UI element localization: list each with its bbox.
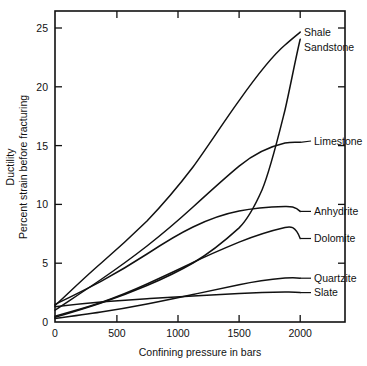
curve-sandstone	[55, 39, 300, 317]
x-axis-ticks-top	[117, 11, 300, 18]
series-labels: Shale Sandstone Limestone Anhydrite Dolo…	[304, 26, 363, 298]
series-label-shale: Shale	[304, 26, 331, 38]
y-tick-label-25: 25	[36, 22, 48, 34]
series-label-limestone: Limestone	[314, 135, 363, 147]
y-tick-label-20: 20	[36, 81, 48, 93]
x-tick-labels: 0 500 1000 1500 2000	[52, 327, 312, 339]
curve-limestone	[55, 142, 300, 310]
series-label-dolomite: Dolomite	[314, 232, 356, 244]
y-axis-ticks	[55, 28, 62, 263]
ductility-chart: 25 20 15 10 5 0 0 500 1000 1500 2000 Con…	[0, 0, 367, 366]
y-axis-title-ductility: Ductility	[4, 148, 16, 186]
x-tick-label-500: 500	[108, 327, 126, 339]
y-tick-label-10: 10	[36, 198, 48, 210]
curve-quartzite	[55, 278, 300, 319]
series-curves	[55, 32, 300, 318]
x-tick-label-1000: 1000	[166, 327, 190, 339]
y-tick-labels: 25 20 15 10 5 0	[36, 22, 48, 328]
curve-slate	[55, 292, 300, 307]
series-label-sandstone: Sandstone	[304, 41, 354, 53]
series-label-slate: Slate	[314, 286, 338, 298]
x-axis-title: Confining pressure in bars	[139, 346, 262, 358]
plot-frame	[55, 11, 345, 322]
curve-shale	[55, 32, 300, 305]
y-axis-title-strain: Percent strain before fracturing	[17, 95, 29, 239]
leader-limestone	[300, 141, 311, 142]
y-tick-label-5: 5	[42, 257, 48, 269]
x-axis-ticks	[117, 315, 300, 322]
x-tick-label-1500: 1500	[227, 327, 251, 339]
series-label-quartzite: Quartzite	[314, 272, 357, 284]
label-leaders	[300, 141, 311, 293]
y-tick-label-15: 15	[36, 140, 48, 152]
series-label-anhydrite: Anhydrite	[314, 205, 359, 217]
y-tick-label-0: 0	[42, 316, 48, 328]
x-tick-label-2000: 2000	[289, 327, 313, 339]
x-tick-label-0: 0	[52, 327, 58, 339]
chart-svg: 25 20 15 10 5 0 0 500 1000 1500 2000 Con…	[0, 0, 367, 366]
